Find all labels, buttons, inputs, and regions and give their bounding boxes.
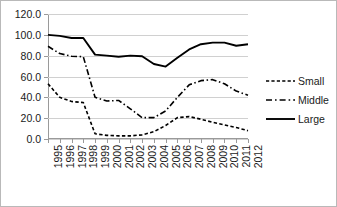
x-axis-tick (189, 139, 190, 143)
y-axis-label: 120.0 (15, 8, 41, 20)
x-axis-tick (119, 139, 120, 143)
x-axis-label: 2004 (158, 145, 170, 168)
x-axis-tick (48, 139, 49, 143)
y-axis-label: 0.0 (26, 133, 41, 145)
x-axis-tick (83, 139, 84, 143)
gridline (48, 139, 248, 140)
x-axis-tick (95, 139, 96, 143)
x-axis-tick (60, 139, 61, 143)
x-axis-label: 2006 (181, 145, 193, 168)
x-axis-label: 2010 (228, 145, 240, 168)
series-line-small (48, 84, 248, 136)
legend-swatch-small (266, 76, 295, 86)
x-axis-tick (154, 139, 155, 143)
legend-item-small: Small (266, 71, 336, 90)
x-axis-label: 2011 (240, 145, 252, 168)
legend-swatch-middle (266, 95, 295, 105)
x-axis-label: 2008 (205, 145, 217, 168)
y-axis-label: 80.0 (21, 50, 41, 62)
legend-label-small: Small (298, 75, 324, 87)
y-axis-label: 100.0 (15, 29, 41, 41)
y-axis-label: 40.0 (21, 91, 41, 103)
x-axis-tick (213, 139, 214, 143)
x-axis-label: 1995 (52, 145, 64, 168)
legend-item-middle: Middle (266, 90, 336, 109)
x-axis-tick (224, 139, 225, 143)
x-axis-tick (107, 139, 108, 143)
legend-label-large: Large (298, 113, 325, 125)
y-axis-label: 60.0 (21, 71, 41, 83)
x-axis-label: 1996 (64, 145, 76, 168)
x-axis-label: 2001 (123, 145, 135, 168)
x-axis-label: 1997 (76, 145, 88, 168)
x-axis-label: 2009 (217, 145, 229, 168)
chart-legend: Small Middle Large (266, 71, 336, 128)
legend-swatch-large (266, 114, 295, 124)
x-axis-tick (177, 139, 178, 143)
chart-figure: 0.020.040.060.080.0100.0120.0 1995199619… (1, 1, 336, 206)
series-line-large (48, 35, 248, 67)
x-axis-label: 2003 (146, 145, 158, 168)
plot-area: 0.020.040.060.080.0100.0120.0 1995199619… (48, 14, 248, 139)
legend-label-middle: Middle (298, 94, 329, 106)
x-axis-label: 2007 (193, 145, 205, 168)
x-axis-tick (166, 139, 167, 143)
x-axis-tick (72, 139, 73, 143)
x-axis-label: 2000 (111, 145, 123, 168)
series-lines (48, 14, 248, 139)
legend-item-large: Large (266, 109, 336, 128)
x-axis-label: 2012 (252, 145, 264, 168)
x-axis-tick (201, 139, 202, 143)
x-axis-tick (236, 139, 237, 143)
x-axis-tick (142, 139, 143, 143)
x-axis-tick (248, 139, 249, 143)
y-axis-label: 20.0 (21, 112, 41, 124)
x-axis-label: 2002 (134, 145, 146, 168)
x-axis-label: 1998 (87, 145, 99, 168)
x-axis-tick (130, 139, 131, 143)
series-line-middle (48, 46, 248, 117)
x-axis-label: 1999 (99, 145, 111, 168)
x-axis-label: 2005 (170, 145, 182, 168)
